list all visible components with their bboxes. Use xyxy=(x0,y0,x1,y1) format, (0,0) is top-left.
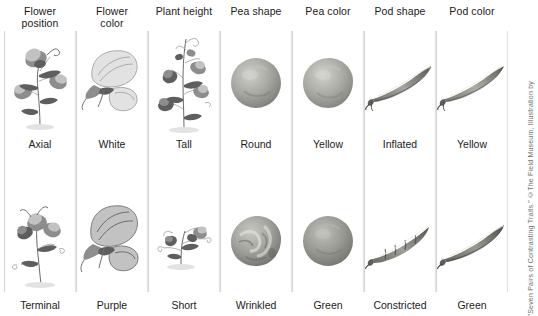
trait-label-dominant: Axial xyxy=(5,138,75,150)
trait-label-recessive-pod-shape: Constricted xyxy=(364,292,436,316)
trait-column-pea-shape: Round xyxy=(220,31,292,292)
trait-label-dominant-cell: Round xyxy=(221,134,291,161)
trait-header-pod-color: Pod color xyxy=(436,2,508,32)
pea-plant-axial-flowers-icon xyxy=(5,31,75,134)
trait-cell-dominant xyxy=(149,31,219,134)
trait-column-pod-color: Yellow xyxy=(436,31,508,292)
trait-header-row: Flower position Flower color Plant heigh… xyxy=(4,2,508,32)
cell-spacer xyxy=(437,161,507,189)
trait-label-dominant-cell: Tall xyxy=(149,134,219,161)
trait-label-dominant: Yellow xyxy=(293,138,363,150)
trait-label-recessive-pea-color: Green xyxy=(292,292,364,316)
pea-seed-round-icon xyxy=(221,31,291,134)
trait-cell-dominant xyxy=(221,31,291,134)
cell-spacer xyxy=(221,161,291,189)
trait-label-dominant-cell: Axial xyxy=(5,134,75,161)
trait-header-flower-color: Flower color xyxy=(76,2,148,32)
trait-cell-recessive xyxy=(437,189,507,292)
recessive-label-row: Terminal Purple Short Wrinkled Green Con… xyxy=(4,292,508,316)
trait-label-dominant-cell: White xyxy=(77,134,147,161)
trait-header-plant-height: Plant height xyxy=(148,2,220,32)
pea-seed-wrinkled-icon xyxy=(221,189,291,292)
cell-spacer xyxy=(77,161,147,189)
trait-cell-recessive xyxy=(293,189,363,292)
header-line-2: color xyxy=(76,18,148,30)
trait-label-dominant-cell: Inflated xyxy=(365,134,435,161)
trait-column-plant-height: Tall xyxy=(148,31,220,292)
header-line-1: Flower xyxy=(76,6,148,18)
trait-label-dominant-cell: Yellow xyxy=(293,134,363,161)
trait-header-pod-shape: Pod shape xyxy=(364,2,436,32)
cell-spacer xyxy=(293,161,363,189)
trait-cell-recessive xyxy=(5,189,75,292)
header-line-1: Pod color xyxy=(436,6,508,18)
cell-spacer xyxy=(5,161,75,189)
trait-label-recessive-flower-position: Terminal xyxy=(4,292,76,316)
trait-cell-dominant xyxy=(437,31,507,134)
trait-label-recessive-pea-shape: Wrinkled xyxy=(220,292,292,316)
pea-flower-purple-icon xyxy=(77,189,147,292)
trait-column-pod-shape: Inflated xyxy=(364,31,436,292)
cell-spacer xyxy=(149,161,219,189)
trait-label-recessive-flower-color: Purple xyxy=(76,292,148,316)
trait-cell-recessive xyxy=(77,189,147,292)
trait-cell-dominant xyxy=(293,31,363,134)
pea-pod-green-icon xyxy=(437,189,507,292)
trait-cell-recessive xyxy=(221,189,291,292)
trait-column-flower-position: Axial xyxy=(4,31,76,292)
pea-pod-yellow-icon xyxy=(437,31,507,134)
header-line-1: Pod shape xyxy=(364,6,436,18)
pea-seed-green-icon xyxy=(293,189,363,292)
credit-line: "Seven Pairs of Contrasting Traits." ©Th… xyxy=(522,0,538,316)
pea-plant-short-icon xyxy=(149,189,219,292)
trait-cell-dominant xyxy=(77,31,147,134)
trait-cell-dominant xyxy=(365,31,435,134)
pea-pod-constricted-icon xyxy=(365,189,435,292)
header-line-1: Plant height xyxy=(148,6,220,18)
trait-cell-recessive xyxy=(365,189,435,292)
trait-header-pea-color: Pea color xyxy=(292,2,364,32)
trait-label-dominant: Tall xyxy=(149,138,219,150)
trait-header-flower-position: Flower position xyxy=(4,2,76,32)
cell-spacer xyxy=(365,161,435,189)
trait-label-dominant: Round xyxy=(221,138,291,150)
credit-text: "Seven Pairs of Contrasting Traits." ©Th… xyxy=(527,79,534,316)
header-line-1: Pea color xyxy=(292,6,364,18)
trait-label-recessive-pod-color: Green xyxy=(436,292,508,316)
trait-label-dominant: Inflated xyxy=(365,138,435,150)
trait-cell-recessive xyxy=(149,189,219,292)
pea-seed-yellow-icon xyxy=(293,31,363,134)
trait-column-pea-color: Yellow xyxy=(292,31,364,292)
header-line-1: Flower xyxy=(4,6,76,18)
trait-label-recessive-plant-height: Short xyxy=(148,292,220,316)
trait-column-flower-color: White xyxy=(76,31,148,292)
contrasting-traits-figure: Flower position Flower color Plant heigh… xyxy=(0,0,538,316)
pea-flower-white-icon xyxy=(77,31,147,134)
trait-header-pea-shape: Pea shape xyxy=(220,2,292,32)
trait-label-dominant-cell: Yellow xyxy=(437,134,507,161)
trait-cell-dominant xyxy=(5,31,75,134)
trait-label-dominant: Yellow xyxy=(437,138,507,150)
header-line-2: position xyxy=(4,18,76,30)
trait-label-dominant: White xyxy=(77,138,147,150)
pea-plant-tall-icon xyxy=(149,31,219,134)
pea-pod-inflated-icon xyxy=(365,31,435,134)
header-line-1: Pea shape xyxy=(220,6,292,18)
pea-plant-terminal-flowers-icon xyxy=(5,189,75,292)
trait-columns: Axial xyxy=(4,31,508,292)
